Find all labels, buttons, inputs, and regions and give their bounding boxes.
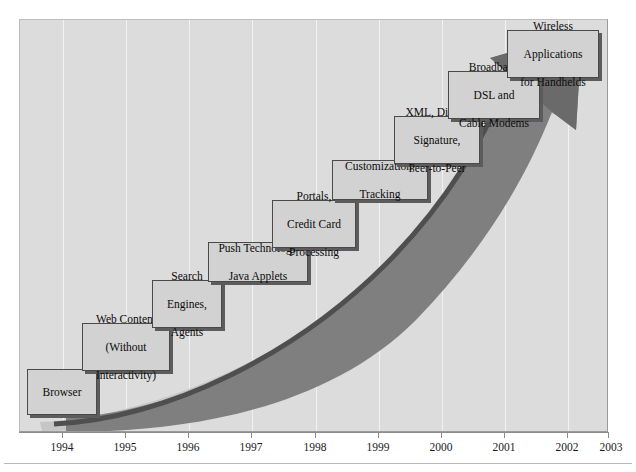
x-axis-label-2003: 2003 [600, 441, 623, 453]
step-box-search-engines[interactable]: Search Engines, Agents [152, 280, 222, 328]
x-axis-tick-2002 [567, 432, 568, 438]
x-axis-tick-1998 [315, 432, 316, 438]
x-axis-tick-1996 [188, 432, 189, 438]
x-axis-label-1998: 1998 [304, 441, 327, 453]
x-axis-tick-2000 [441, 432, 442, 438]
x-axis-label-1994: 1994 [51, 441, 74, 453]
caption-clipped-text [6, 468, 46, 472]
x-axis-label-2001: 2001 [493, 441, 516, 453]
step-label-browser: Browser [32, 385, 92, 399]
caption-divider-rule [4, 463, 632, 464]
x-axis-tick-1995 [125, 432, 126, 438]
x-axis-tick-1997 [251, 432, 252, 438]
x-axis-tick-2001 [504, 432, 505, 438]
step-label-wireless: Wireless Applications for Handhelds [512, 19, 594, 89]
x-axis-line [19, 432, 608, 433]
x-axis-tick-1999 [378, 432, 379, 438]
x-axis-tick-1994 [62, 432, 63, 438]
x-axis-label-1997: 1997 [240, 441, 263, 453]
step-box-wireless[interactable]: Wireless Applications for Handhelds [507, 30, 599, 78]
plot-area: Browser Web Content (Without Interactivi… [19, 19, 608, 432]
x-axis-label-2000: 2000 [430, 441, 453, 453]
x-axis-label-2002: 2002 [556, 441, 579, 453]
step-box-portals[interactable]: Portals, Credit Card Processing [272, 200, 356, 248]
x-axis-label-1996: 1996 [177, 441, 200, 453]
x-axis-label-1995: 1995 [114, 441, 137, 453]
technology-evolution-chart: Browser Web Content (Without Interactivi… [0, 0, 636, 472]
x-axis-tick-2003 [608, 432, 609, 438]
x-axis-label-1999: 1999 [367, 441, 390, 453]
